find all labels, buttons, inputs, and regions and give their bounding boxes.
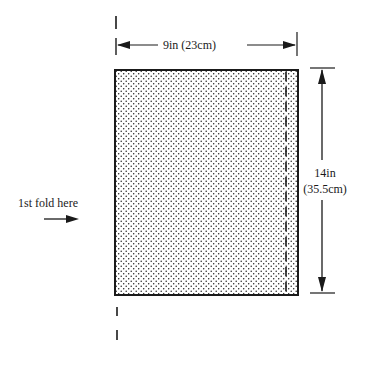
fold-instruction-label: 1st fold here bbox=[18, 196, 78, 210]
width-label: 9in (23cm) bbox=[160, 38, 219, 52]
arrow-up-icon bbox=[318, 69, 326, 84]
arrow-right-icon bbox=[283, 41, 296, 49]
height-inches: 14in bbox=[300, 165, 350, 181]
height-label: 14in (35.5cm) bbox=[300, 165, 350, 197]
arrow-down-icon bbox=[318, 277, 326, 292]
height-cm: (35.5cm) bbox=[300, 181, 350, 197]
arrow-right-icon bbox=[66, 215, 79, 223]
fold-arrow bbox=[44, 215, 79, 223]
arrow-left-icon bbox=[117, 41, 130, 49]
paper-sheet bbox=[115, 70, 298, 295]
